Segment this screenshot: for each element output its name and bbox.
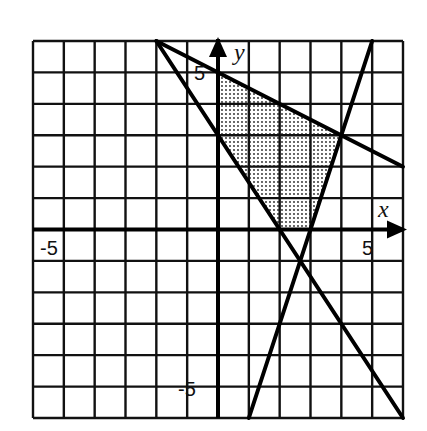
y-tick-neg5: -5: [178, 378, 196, 400]
x-tick-neg5: -5: [40, 237, 58, 259]
graph: -5 5 5 -5 x y: [0, 0, 427, 431]
axes: [33, 37, 407, 418]
y-axis-label: y: [232, 39, 245, 65]
y-tick-5: 5: [194, 62, 205, 84]
x-axis-label: x: [377, 196, 389, 222]
x-tick-5: 5: [362, 237, 373, 259]
